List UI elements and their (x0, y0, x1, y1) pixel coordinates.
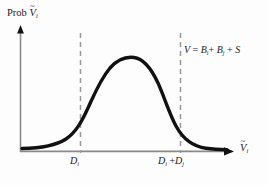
equation-annotation: V = Bi+ Bj + S (184, 45, 240, 56)
equation-term2-subscript: j (223, 49, 225, 56)
x-tick-label-right: Di +Dj (158, 156, 184, 167)
probability-density-figure: Prob ~Vi ~Vi V = Bi+ Bj + S Di Di +Dj (0, 0, 268, 185)
y-axis-variable: ~V (29, 8, 35, 19)
x-axis-variable-subscript: i (246, 147, 248, 154)
tilde-accent-icon: ~ (30, 2, 35, 11)
equation-plus1: + (209, 44, 215, 55)
tick-right-second-subscript: j (182, 160, 184, 167)
tick-right-first-subscript: i (165, 160, 167, 167)
x-axis-label: ~Vi (240, 143, 248, 155)
x-axis-variable: ~V (240, 143, 246, 154)
density-curve (22, 57, 227, 149)
y-axis-label-prefix: Prob (7, 7, 27, 18)
tick-left-subscript: i (77, 160, 79, 167)
plot-canvas (0, 0, 268, 185)
y-axis-label: Prob ~Vi (7, 8, 38, 20)
equation-lhs: V (184, 44, 190, 55)
equation-term3: S (235, 44, 240, 55)
y-axis-variable-subscript: i (36, 12, 38, 19)
y-axis (17, 25, 24, 152)
tilde-accent-icon: ~ (240, 137, 245, 146)
equation-equals: = (193, 44, 199, 55)
equation-plus2: + (227, 44, 233, 55)
x-tick-label-left: Di (70, 156, 79, 167)
